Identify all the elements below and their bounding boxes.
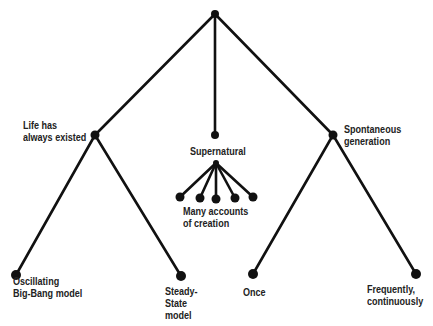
edge-life-steady (95, 135, 181, 276)
label-spontaneous-generation: Spontaneous generation (344, 123, 401, 147)
edge-spontaneous-once (253, 135, 333, 274)
edge-life-oscillating (16, 135, 95, 275)
edge-fan-5 (216, 163, 253, 197)
node-frequently (411, 269, 421, 279)
node-root (211, 10, 219, 18)
label-life-has-always-existed: Life has always existed (23, 119, 86, 143)
label-many-accounts-of-creation: Many accounts of creation (183, 205, 248, 229)
node-life (91, 131, 100, 140)
edge-fan-2 (200, 163, 216, 198)
edge-root-life (95, 14, 215, 135)
node-supernatural (211, 131, 219, 139)
node-fan-source (213, 160, 219, 166)
label-oscillating-big-bang-model: Oscillating Big-Bang model (13, 275, 82, 299)
node-spontaneous (329, 131, 338, 140)
label-frequently-continuously: Frequently, continuously (367, 283, 423, 307)
edge-spontaneous-frequently (333, 135, 416, 274)
node-fan-1 (176, 193, 185, 202)
origin-of-life-tree-diagram: Life has always existed Supernatural Spo… (0, 0, 433, 326)
node-once (248, 269, 258, 279)
edge-root-spontaneous (215, 14, 333, 135)
edge-fan-1 (180, 163, 216, 197)
node-fan-5 (249, 193, 258, 202)
node-fan-4 (231, 194, 240, 203)
node-fan-3 (212, 195, 221, 204)
node-fan-2 (196, 194, 205, 203)
label-steady-state-model: Steady- State model (165, 285, 198, 321)
node-steady (176, 271, 186, 281)
label-once: Once (243, 286, 266, 298)
edge-fan-4 (216, 163, 235, 198)
label-supernatural: Supernatural (190, 145, 246, 157)
